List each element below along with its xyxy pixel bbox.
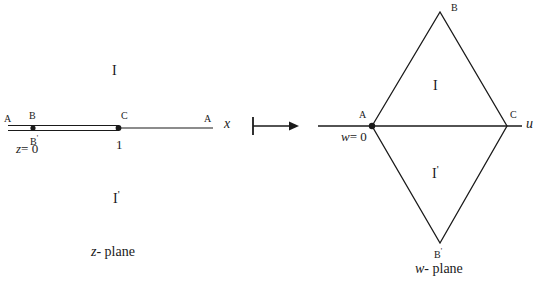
w-plane-region-lower-mark: ' [437, 163, 439, 175]
w-plane-region-upper-label: I [433, 79, 438, 93]
z-plane-point-b-dot [30, 125, 35, 130]
w-plane-origin-label: w= 0 [341, 130, 367, 143]
w-plane-caption: w- plane [415, 262, 463, 276]
w-plane-origin-label-rest: = 0 [350, 129, 367, 144]
w-plane-origin-label-var: w [341, 129, 350, 144]
z-plane-caption-rest: - plane [96, 244, 134, 259]
z-plane-label-c: C [121, 111, 128, 121]
z-plane-caption: z- plane [91, 245, 135, 259]
z-plane-region-lower-mark: ' [118, 188, 120, 200]
w-plane-label-b-prime-mark: ' [441, 247, 442, 256]
w-plane-axis-label-u: u [526, 117, 533, 131]
w-plane-point-a-dot [369, 123, 375, 129]
z-plane-tick-label-one: 1 [116, 138, 123, 151]
conformal-mapping-figure: A B B' z= 0 C 1 A x I I' z- plane A w= 0… [0, 0, 545, 290]
w-plane-label-b-prime: B' [434, 248, 442, 260]
z-plane-origin-label-rest: = 0 [21, 141, 38, 156]
figure-vector-graphics [0, 0, 545, 290]
z-plane-origin-label: z= 0 [16, 142, 38, 155]
w-plane-rhombus-outline [372, 12, 507, 243]
z-plane-axis-label-x: x [224, 117, 230, 131]
z-plane-label-b: B [29, 111, 36, 121]
w-plane-region-lower-label: I' [432, 164, 439, 181]
z-plane-graphics [8, 125, 213, 131]
w-plane-caption-rest: - plane [424, 261, 462, 276]
maps-to-arrow-head [289, 122, 299, 131]
z-plane-label-a-right: A [204, 114, 211, 124]
z-plane-region-upper-label: I [112, 64, 117, 78]
w-plane-label-b-prime-letter: B [434, 249, 441, 260]
z-plane-region-lower-label: I' [113, 189, 120, 206]
w-plane-caption-var: w [415, 261, 424, 276]
maps-to-arrow-graphics [253, 117, 299, 135]
z-plane-label-a-left: A [4, 114, 11, 124]
w-plane-label-a: A [359, 110, 366, 120]
w-plane-label-b: B [451, 3, 458, 13]
w-plane-graphics [318, 12, 522, 243]
w-plane-label-c: C [510, 110, 517, 120]
z-plane-point-c-dot [116, 125, 122, 131]
